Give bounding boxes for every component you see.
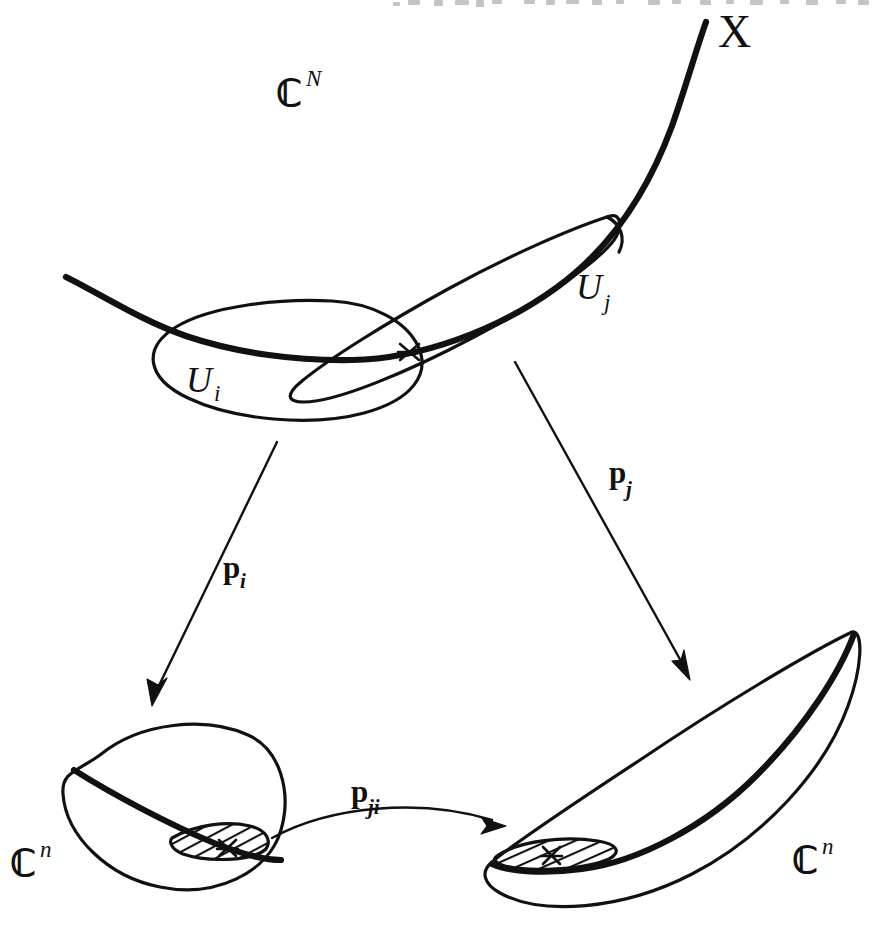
label-map-pj-base: p [609,455,626,490]
label-chart-Ui-sub: i [214,381,220,406]
label-map-pi-base: p [223,550,240,585]
blob-right-Cn: ℂ n [485,632,860,907]
label-chart-Uj-sub: j [601,290,610,315]
manifold-chart-diagram: ℂ N X U i U j p i p j [0,0,887,932]
label-chart-Uj: U j [576,267,610,315]
arrow-map-pi: p i [147,442,277,706]
blob-left-Cn: ℂ n [10,724,285,889]
label-ambient-space: ℂ N [276,66,323,114]
intersection-x-marker [398,344,421,360]
label-target-left: ℂ n [10,837,52,884]
label-chart-Ui: U i [186,360,220,406]
region-Uj [290,216,622,402]
label-target-right: ℂ n [792,834,834,881]
label-target-left-base: ℂ [10,843,36,884]
arrow-transition-pji: p ji [272,774,506,838]
label-chart-Ui-base: U [186,360,214,400]
label-map-pi-sub: i [240,569,246,593]
label-transition-pji-sub: ji [365,795,380,819]
figure-root: ℂ N X U i U j p i p j [0,0,887,932]
cropped-text-sliver [393,0,869,7]
label-ambient-space-base: ℂ [276,73,302,114]
label-target-right-sup: n [822,834,834,859]
arrow-map-pj: p j [515,362,690,680]
label-ambient-space-sup: N [305,66,323,91]
hatched-region-left [160,812,280,874]
label-manifold-X-text: X [718,6,751,57]
label-target-right-base: ℂ [792,840,818,881]
label-transition-pji-base: p [351,774,368,809]
label-chart-Uj-base: U [576,267,604,307]
label-manifold-X: X [718,6,751,57]
label-target-left-sup: n [40,837,52,862]
